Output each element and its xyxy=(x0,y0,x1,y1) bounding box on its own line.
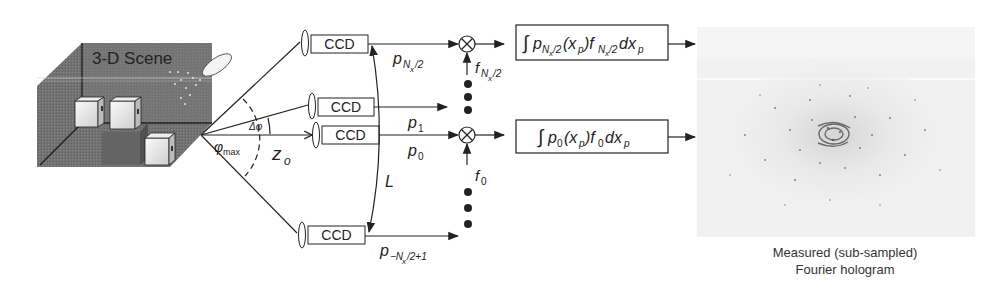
integrator-p0: ∫ p 0 (x p )f 0 dx p xyxy=(516,120,695,153)
svg-text:z: z xyxy=(271,143,282,164)
svg-text:0: 0 xyxy=(557,138,563,149)
svg-text:0: 0 xyxy=(481,176,487,187)
signal-label-top: p N x /2 xyxy=(392,50,424,74)
svg-text:/2: /2 xyxy=(414,59,424,70)
svg-text:0: 0 xyxy=(598,138,604,149)
signal-label-p0: p 0 xyxy=(407,142,424,162)
svg-text:(x: (x xyxy=(563,35,577,52)
reference-label-p0: f 0 xyxy=(475,167,487,187)
multiplier-p0 xyxy=(459,127,504,165)
camera-p0: CCD xyxy=(313,122,380,148)
svg-text:p: p xyxy=(407,114,417,131)
svg-text:dx: dx xyxy=(619,35,637,52)
reference-label-top: f N x /2 xyxy=(475,59,502,83)
svg-text:max: max xyxy=(223,147,241,157)
svg-text:/2: /2 xyxy=(608,44,618,55)
integrator-top: ∫ p N x /2 (x p )f N x /2 dx p xyxy=(516,25,695,60)
svg-text:o: o xyxy=(284,154,291,168)
delta-phi-label: Δφ xyxy=(248,121,263,132)
svg-text:1: 1 xyxy=(418,123,424,134)
camera-bottom: CCD xyxy=(299,222,366,248)
svg-text:p: p xyxy=(637,44,644,55)
svg-text:p: p xyxy=(623,138,630,149)
signal-label-p1: p 1 xyxy=(407,114,424,134)
svg-text:φ: φ xyxy=(214,139,223,155)
ccd-label: CCD xyxy=(335,127,365,143)
camera-top: CCD xyxy=(302,30,369,56)
scene-title: 3-D Scene xyxy=(92,49,172,68)
cube-3 xyxy=(145,133,175,165)
hologram-caption-line1: Measured (sub-sampled) xyxy=(705,244,985,261)
phi-max-label: φ max xyxy=(214,139,241,157)
fourier-hologram-image xyxy=(697,27,975,237)
svg-text:/2: /2 xyxy=(492,68,502,79)
svg-text:dx: dx xyxy=(605,129,623,146)
signal-label-bottom: p −N x /2+1 xyxy=(379,242,427,266)
svg-text:p: p xyxy=(578,138,585,149)
svg-text:)f: )f xyxy=(582,35,595,52)
hologram-caption-line2: Fourier hologram xyxy=(705,261,985,278)
distance-z-label: z o xyxy=(271,143,291,168)
svg-text:(x: (x xyxy=(564,129,578,146)
ellipsis-dots xyxy=(464,80,472,228)
svg-text:p: p xyxy=(532,35,542,52)
ccd-label: CCD xyxy=(321,227,351,243)
svg-text:p: p xyxy=(547,129,557,146)
cube-1 xyxy=(75,97,104,127)
cube-2 xyxy=(110,97,141,129)
svg-text:/2: /2 xyxy=(552,44,562,55)
svg-text:p: p xyxy=(407,142,417,159)
ccd-label: CCD xyxy=(331,99,361,115)
svg-text:)f: )f xyxy=(583,129,596,146)
svg-text:p: p xyxy=(379,242,389,259)
svg-text:p: p xyxy=(577,44,584,55)
camera-p1: CCD xyxy=(309,93,375,119)
ccd-label: CCD xyxy=(324,36,354,52)
svg-text:0: 0 xyxy=(418,151,424,162)
svg-text:p: p xyxy=(392,50,402,67)
baseline-label: L xyxy=(385,173,394,190)
svg-text:/2+1: /2+1 xyxy=(406,251,427,262)
